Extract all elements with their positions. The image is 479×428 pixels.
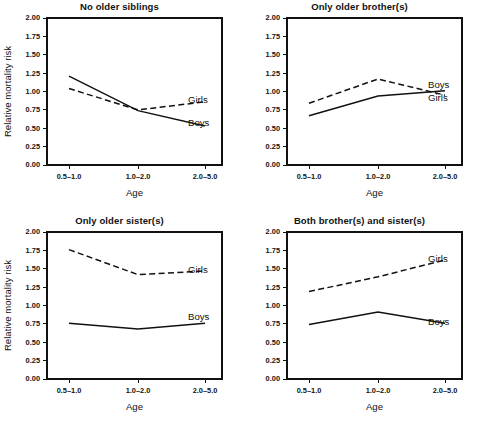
y-tick-label: 0.75 — [26, 319, 40, 328]
series-label-boys: Boys — [428, 79, 450, 90]
y-tick-label: 0.25 — [26, 142, 40, 151]
y-tick-label: 0.00 — [266, 160, 280, 169]
x-axis-title: Age — [126, 401, 143, 412]
y-tick-label: 1.50 — [26, 264, 40, 273]
y-tick-label: 1.25 — [26, 283, 40, 292]
y-tick-label: 0.50 — [266, 338, 280, 347]
panel-no-older-siblings: No older siblings 0.000.250.500.751.001.… — [0, 0, 239, 214]
y-tick-label: 0.50 — [266, 124, 280, 133]
series-line-girls — [309, 260, 445, 292]
series-label-girls: Girls — [188, 94, 208, 105]
panel-only-older-sisters: Only older sister(s) 0.000.250.500.751.0… — [0, 214, 239, 428]
series-line-girls — [69, 250, 205, 275]
y-tick-label: 1.75 — [26, 32, 40, 41]
y-tick-label: 1.75 — [266, 246, 280, 255]
series-label-boys: Boys — [188, 117, 210, 128]
series-line-girls — [69, 89, 205, 110]
y-tick-label: 0.25 — [266, 142, 280, 151]
y-tick-label: 1.00 — [26, 301, 40, 310]
plot-area: 0.000.250.500.751.001.251.501.752.000.5–… — [0, 214, 239, 428]
plot-area: 0.000.250.500.751.001.251.501.752.000.5–… — [0, 0, 239, 214]
x-tick-label: 0.5–1.0 — [297, 172, 322, 181]
x-tick-label: 1.0–2.0 — [366, 172, 391, 181]
y-tick-label: 0.75 — [266, 319, 280, 328]
y-tick-label: 0.75 — [26, 105, 40, 114]
x-axis-title: Age — [366, 401, 383, 412]
series-line-boys — [69, 76, 205, 126]
plot-area: 0.000.250.500.751.001.251.501.752.000.5–… — [240, 0, 479, 214]
x-tick-label: 1.0–2.0 — [366, 386, 391, 395]
plot-area: 0.000.250.500.751.001.251.501.752.000.5–… — [240, 214, 479, 428]
series-line-girls — [309, 79, 445, 103]
x-tick-label: 0.5–1.0 — [57, 386, 82, 395]
x-tick-label: 0.5–1.0 — [57, 172, 82, 181]
y-tick-label: 0.50 — [26, 338, 40, 347]
y-axis-title: Relative mortality risk — [2, 46, 13, 137]
y-tick-label: 0.00 — [266, 374, 280, 383]
y-tick-label: 1.25 — [266, 283, 280, 292]
x-tick-label: 1.0–2.0 — [126, 172, 151, 181]
x-tick-label: 2.0–5.0 — [193, 386, 218, 395]
series-label-girls: Girls — [428, 253, 448, 264]
y-tick-label: 0.25 — [26, 356, 40, 365]
x-tick-label: 2.0–5.0 — [433, 172, 458, 181]
y-tick-label: 1.00 — [266, 301, 280, 310]
y-axis-title: Relative mortality risk — [2, 260, 13, 351]
x-axis-title: Age — [126, 187, 143, 198]
x-axis-title: Age — [366, 187, 383, 198]
y-tick-label: 1.50 — [26, 50, 40, 59]
panel-both-brothers-and-sisters: Both brother(s) and sister(s) 0.000.250.… — [240, 214, 479, 428]
y-tick-label: 2.00 — [26, 227, 40, 236]
x-tick-label: 0.5–1.0 — [297, 386, 322, 395]
y-tick-label: 1.25 — [26, 69, 40, 78]
y-tick-label: 1.75 — [266, 32, 280, 41]
y-tick-label: 2.00 — [26, 13, 40, 22]
series-label-girls: Girls — [428, 92, 448, 103]
plot-frame — [47, 232, 222, 379]
y-tick-label: 0.50 — [26, 124, 40, 133]
y-tick-label: 1.75 — [26, 246, 40, 255]
y-tick-label: 1.25 — [266, 69, 280, 78]
x-tick-label: 1.0–2.0 — [126, 386, 151, 395]
series-label-boys: Boys — [428, 316, 450, 327]
y-tick-label: 1.50 — [266, 50, 280, 59]
x-tick-label: 2.0–5.0 — [433, 386, 458, 395]
series-line-boys — [309, 91, 445, 116]
x-tick-label: 2.0–5.0 — [193, 172, 218, 181]
y-tick-label: 0.25 — [266, 356, 280, 365]
y-tick-label: 1.00 — [266, 87, 280, 96]
y-tick-label: 2.00 — [266, 13, 280, 22]
figure-panel-grid: No older siblings 0.000.250.500.751.001.… — [0, 0, 479, 428]
y-tick-label: 1.50 — [266, 264, 280, 273]
series-label-girls: Girls — [188, 264, 208, 275]
y-tick-label: 1.00 — [26, 87, 40, 96]
plot-frame — [47, 18, 222, 165]
y-tick-label: 2.00 — [266, 227, 280, 236]
y-tick-label: 0.00 — [26, 160, 40, 169]
panel-only-older-brothers: Only older brother(s) 0.000.250.500.751.… — [240, 0, 479, 214]
series-label-boys: Boys — [188, 311, 210, 322]
y-tick-label: 0.00 — [26, 374, 40, 383]
series-line-boys — [69, 323, 205, 329]
series-line-boys — [309, 312, 445, 325]
y-tick-label: 0.75 — [266, 105, 280, 114]
